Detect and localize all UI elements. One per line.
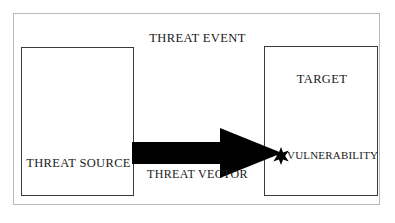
target-label: TARGET bbox=[265, 72, 379, 87]
threat-event-diagram: THREAT EVENT THREAT SOURCE TARGET VULNER… bbox=[0, 0, 395, 223]
threat-event-title: THREAT EVENT bbox=[14, 31, 381, 46]
vulnerability-label: VULNERABILITY bbox=[287, 149, 378, 161]
threat-event-frame: THREAT EVENT THREAT SOURCE TARGET VULNER… bbox=[13, 13, 380, 205]
threat-vector-label: THREAT VECTOR bbox=[14, 167, 381, 182]
